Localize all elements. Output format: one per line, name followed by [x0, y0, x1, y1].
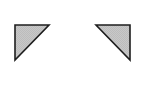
- shapes-layer: [0, 0, 149, 106]
- right-triangle-icon: [96, 25, 130, 60]
- left-triangle-icon: [15, 25, 49, 60]
- canvas: [0, 0, 149, 106]
